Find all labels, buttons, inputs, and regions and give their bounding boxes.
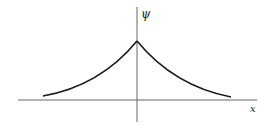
psi-curve-left <box>43 41 137 96</box>
psi-diagram <box>0 0 270 125</box>
psi-curve-right <box>137 41 231 97</box>
x-axis-label: x <box>250 104 256 114</box>
psi-axis-label: ψ <box>141 8 150 20</box>
